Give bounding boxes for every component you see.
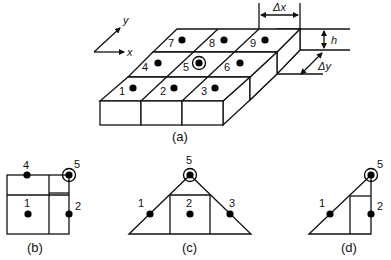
svg-text:8: 8: [209, 37, 215, 49]
caption-a: (a): [172, 129, 188, 144]
svg-text:1: 1: [319, 197, 325, 209]
svg-text:3: 3: [201, 85, 207, 97]
svg-text:2: 2: [377, 200, 383, 212]
node-1: [24, 210, 31, 217]
svg-text:2: 2: [186, 197, 192, 209]
svg-text:1: 1: [138, 197, 144, 209]
node-2: [186, 210, 193, 217]
svg-text:9: 9: [250, 37, 256, 49]
node-4: [23, 171, 30, 178]
top-row-mid: [128, 52, 277, 77]
svg-text:4: 4: [23, 159, 29, 171]
svg-text:2: 2: [160, 85, 166, 97]
svg-text:2: 2: [75, 200, 81, 212]
front-face-1: [100, 101, 141, 125]
svg-text:5: 5: [186, 154, 192, 166]
figure-c: 5 1 2 3 (c): [129, 154, 251, 255]
svg-text:6: 6: [224, 61, 230, 73]
h-label: h: [331, 34, 337, 46]
svg-text:5: 5: [74, 158, 80, 170]
caption-c: (c): [182, 240, 197, 255]
node-dot: [195, 59, 202, 66]
dimension-h: h: [300, 29, 350, 50]
node-dot: [211, 84, 218, 91]
figure-b: 4 5 1 2 (b): [7, 158, 81, 255]
node-3: [226, 210, 233, 217]
svg-text:5: 5: [183, 61, 189, 73]
node-dot: [261, 36, 268, 43]
node-1: [146, 210, 153, 217]
node-dot: [170, 84, 177, 91]
node-dot: [129, 84, 136, 91]
node-5: [65, 171, 72, 178]
figure-a: x y Δx h: [94, 1, 350, 144]
y-axis-label: y: [122, 14, 130, 26]
svg-text:5: 5: [377, 158, 383, 170]
node-dot: [154, 59, 161, 66]
caption-d: (d): [341, 240, 357, 255]
diagram-canvas: x y Δx h: [0, 0, 391, 260]
dx-label: Δx: [272, 1, 286, 13]
svg-text:1: 1: [119, 85, 125, 97]
node-2: [65, 210, 72, 217]
node-5: [186, 171, 193, 178]
dimension-dx: Δx: [259, 1, 300, 29]
front-face-2: [141, 101, 182, 125]
node-1: [326, 210, 333, 217]
svg-text:3: 3: [229, 197, 235, 209]
svg-text:1: 1: [24, 197, 30, 209]
svg-text:4: 4: [142, 61, 148, 73]
svg-text:7: 7: [168, 37, 174, 49]
dy-label: Δy: [317, 60, 332, 72]
node-dot: [178, 36, 185, 43]
caption-b: (b): [27, 240, 43, 255]
node-dot: [220, 36, 227, 43]
figure-d: 5 1 2 (d): [309, 158, 383, 255]
x-axis-label: x: [126, 46, 133, 58]
node-dot: [236, 59, 243, 66]
axis-arrows: x y: [94, 14, 133, 58]
node-5: [367, 171, 374, 178]
front-face-3: [182, 101, 223, 125]
node-2: [367, 210, 374, 217]
